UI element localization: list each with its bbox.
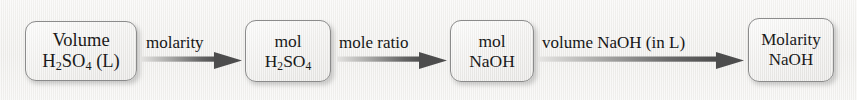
arrow-molarity: molarity <box>142 50 242 70</box>
node-mol-h2so4: mol H2SO4 <box>245 20 331 82</box>
node-mol-h2so4-line1: mol <box>274 31 301 51</box>
stoichiometry-flowchart: Volume H2SO4 (L) molarity mol H2SO4 mole… <box>0 0 857 100</box>
arrow-volume-naoh-label: volume NaOH (in L) <box>542 34 685 51</box>
arrow-molarity-icon <box>142 50 242 70</box>
node-volume-h2so4-line1: Volume <box>52 30 109 51</box>
node-volume-h2so4: Volume H2SO4 (L) <box>25 21 137 81</box>
arrow-volume-naoh: volume NaOH (in L) <box>538 50 744 70</box>
node-molarity-naoh-line1: Molarity <box>761 30 821 50</box>
arrow-mole-ratio-label: mole ratio <box>339 34 408 51</box>
node-mol-naoh-line2: NaOH <box>469 51 515 71</box>
arrow-volume-naoh-icon <box>538 50 744 70</box>
node-volume-h2so4-line2: H2SO4 (L) <box>42 51 120 72</box>
arrow-molarity-label: molarity <box>146 34 204 51</box>
node-molarity-naoh-line2: NaOH <box>769 50 813 70</box>
arrow-mole-ratio: mole ratio <box>337 50 447 70</box>
arrow-mole-ratio-icon <box>337 50 447 70</box>
node-mol-naoh: mol NaOH <box>450 20 534 82</box>
node-mol-h2so4-line2: H2SO4 <box>265 51 312 71</box>
node-mol-naoh-line1: mol <box>478 31 505 51</box>
node-molarity-naoh: Molarity NaOH <box>748 18 834 82</box>
